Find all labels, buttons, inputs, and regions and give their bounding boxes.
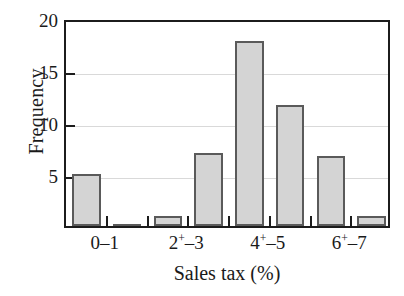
x-tick-label-3: 6+–7 [332, 232, 367, 254]
y-tick-label-15: 15 [12, 63, 58, 82]
histogram-figure: Frequency 5101520 0–12+–34+–56+–7 Sales … [0, 0, 404, 296]
x-tick-mark-4 [228, 216, 230, 226]
x-tick-mark-2 [147, 216, 149, 226]
y-tick-label-10: 10 [12, 115, 58, 134]
bar-5+-6 [276, 105, 305, 226]
plot-area [64, 20, 390, 228]
y-tick-label-5: 5 [12, 167, 58, 186]
bar-4+-5 [235, 41, 264, 226]
x-tick-label-0: 0–1 [91, 232, 120, 254]
bar-series [66, 22, 388, 226]
y-axis-tick-labels: 5101520 [0, 0, 58, 296]
x-tick-mark-3 [187, 216, 189, 226]
x-axis-title: Sales tax (%) [64, 262, 390, 285]
x-tick-mark-5 [269, 216, 271, 226]
bar-3+-4 [194, 153, 223, 226]
bar-6+-7 [317, 156, 346, 226]
bar-0-1 [72, 174, 101, 226]
x-tick-mark-1 [106, 216, 108, 226]
bar-1+-2 [113, 224, 142, 226]
x-tick-mark-6 [310, 216, 312, 226]
y-tick-label-20: 20 [12, 11, 58, 30]
x-tick-label-1: 2+–3 [169, 232, 204, 254]
x-tick-label-2: 4+–5 [250, 232, 285, 254]
x-tick-mark-7 [350, 216, 352, 226]
bar-2+-3 [154, 216, 183, 226]
x-axis-tick-labels: 0–12+–34+–56+–7 [64, 232, 390, 262]
bar-7+-8 [357, 216, 386, 226]
